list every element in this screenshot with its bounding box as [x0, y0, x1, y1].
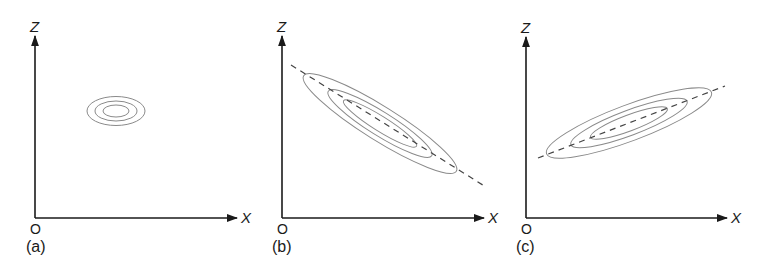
panel-caption: (b) — [272, 238, 292, 255]
z-axis-label: Z — [276, 18, 287, 35]
z-axis-label: Z — [520, 19, 531, 36]
origin-label: O — [521, 221, 532, 237]
origin-label: O — [277, 221, 288, 237]
x-axis-label: X — [730, 209, 742, 226]
panel-b: Z X O (b) — [272, 18, 499, 255]
contour-ellipses — [87, 97, 145, 126]
panel-c: Z X O (c) — [516, 19, 742, 255]
panel-caption: (c) — [516, 238, 535, 255]
contour-ellipses — [295, 61, 466, 185]
x-axis-label: X — [487, 209, 499, 226]
panel-caption: (a) — [26, 238, 46, 255]
figure: Z X O (a) Z X O (b) Z X O (c) — [0, 0, 763, 278]
z-axis-label: Z — [29, 18, 40, 35]
contour-ellipses — [540, 75, 717, 170]
origin-label: O — [30, 221, 41, 237]
x-axis-label: X — [240, 209, 252, 226]
panel-a: Z X O (a) — [26, 18, 252, 255]
principal-axis-dashed — [538, 86, 725, 158]
